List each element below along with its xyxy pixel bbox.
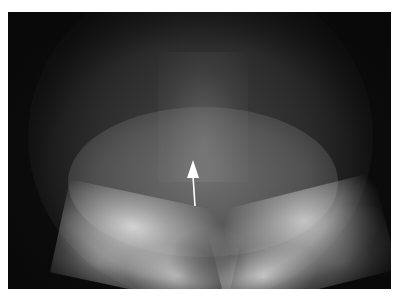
radiograph-image (8, 12, 391, 289)
vignette (8, 12, 391, 289)
skull-outline (28, 12, 373, 289)
foramen-region (168, 227, 248, 289)
right-petrous-bone (204, 172, 391, 289)
arrow-up-icon (184, 160, 204, 208)
left-petrous-bone (50, 179, 246, 289)
